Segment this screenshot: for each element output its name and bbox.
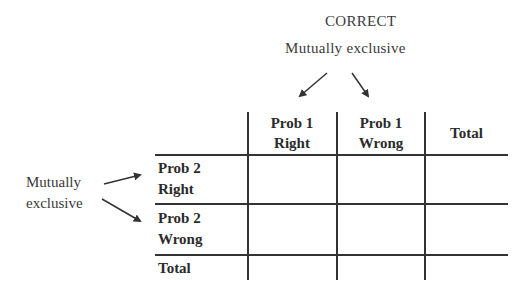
arrow-to-prob1-right-icon (300, 73, 327, 96)
row-header-line1: Prob 2 (158, 158, 201, 179)
row-header-line1: Total (158, 258, 191, 279)
arrow-to-prob1-wrong-icon (352, 73, 368, 96)
col-header-line2: Wrong (337, 133, 425, 153)
row-header-total: Total (158, 258, 191, 279)
row-header-prob2-right: Prob 2 Right (158, 158, 201, 200)
arrow-to-prob2-right-icon (104, 175, 140, 184)
side-label-line1: Mutually (26, 172, 83, 193)
col-header-line1: Prob 1 (248, 113, 336, 133)
grid-hline-2 (155, 203, 508, 205)
col-header-prob1-wrong: Prob 1 Wrong (337, 113, 425, 153)
col-header-line2: Right (248, 133, 336, 153)
row-header-line2: Right (158, 179, 201, 200)
row-header-line1: Prob 2 (158, 208, 202, 229)
arrow-to-prob2-wrong-icon (102, 199, 140, 221)
row-header-line2: Wrong (158, 229, 202, 250)
side-mutually-exclusive-label: Mutually exclusive (26, 172, 83, 214)
col-header-line1: Total (425, 123, 508, 143)
col-header-line1: Prob 1 (337, 113, 425, 133)
col-header-total: Total (425, 123, 508, 143)
grid-hline-1 (155, 154, 508, 156)
side-label-line2: exclusive (26, 193, 83, 214)
grid-hline-3 (155, 254, 508, 256)
row-header-prob2-wrong: Prob 2 Wrong (158, 208, 202, 250)
col-header-prob1-right: Prob 1 Right (248, 113, 336, 153)
